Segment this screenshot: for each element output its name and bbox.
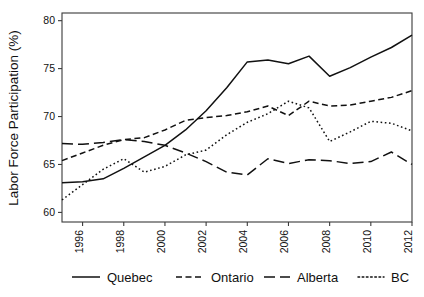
series-line-ontario xyxy=(62,91,412,161)
x-tick-label: 2008 xyxy=(320,230,332,254)
x-tick-label: 2010 xyxy=(361,230,373,254)
series-line-quebec xyxy=(62,35,412,183)
y-axis-ticks: 6065707580 xyxy=(43,14,62,218)
x-tick-label: 1998 xyxy=(114,230,126,254)
x-tick-label: 1996 xyxy=(73,230,85,254)
legend-label-bc: BC xyxy=(391,270,409,285)
legend-label-quebec: Quebec xyxy=(107,270,153,285)
y-tick-label: 60 xyxy=(43,206,55,218)
y-tick-label: 70 xyxy=(43,110,55,122)
x-axis-ticks: 199619982000200220042006200820102012 xyxy=(73,222,414,253)
legend-label-ontario: Ontario xyxy=(211,270,254,285)
x-tick-label: 2006 xyxy=(278,230,290,254)
y-tick-label: 80 xyxy=(43,14,55,26)
y-axis-title-group: Labor Force Participation (%) xyxy=(6,30,21,206)
series-line-alberta xyxy=(62,140,412,175)
chart-legend: QuebecOntarioAlbertaBC xyxy=(72,270,409,285)
y-tick-label: 75 xyxy=(43,62,55,74)
y-tick-label: 65 xyxy=(43,158,55,170)
x-tick-label: 2002 xyxy=(196,230,208,254)
series-lines xyxy=(62,35,412,200)
x-tick-label: 2004 xyxy=(237,230,249,254)
line-chart: Labor Force Participation (%) 6065707580… xyxy=(0,0,424,297)
plot-frame xyxy=(62,13,412,222)
series-line-bc xyxy=(62,101,412,200)
chart-container: Labor Force Participation (%) 6065707580… xyxy=(0,0,424,297)
x-tick-label: 2012 xyxy=(402,230,414,254)
y-axis-title: Labor Force Participation (%) xyxy=(6,30,21,206)
x-tick-label: 2000 xyxy=(155,230,167,254)
legend-label-alberta: Alberta xyxy=(297,270,339,285)
